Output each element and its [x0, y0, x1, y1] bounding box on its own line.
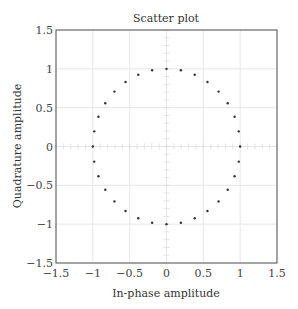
data-point [217, 200, 219, 202]
data-point [206, 81, 208, 83]
data-point [238, 130, 240, 132]
data-point [104, 102, 106, 104]
data-point [97, 175, 99, 177]
data-point [217, 90, 219, 92]
chart-title: Scatter plot [133, 12, 200, 25]
data-point [165, 223, 167, 225]
data-point [206, 210, 208, 212]
data-point [194, 74, 196, 76]
data-point [227, 188, 229, 190]
data-point [137, 74, 139, 76]
data-point [233, 175, 235, 177]
data-point [239, 145, 241, 147]
x-tick-label: 0.5 [195, 267, 213, 280]
x-tick-labels: −1.5−1−0.500.511.5 [43, 267, 286, 280]
data-point [124, 81, 126, 83]
x-axis-label: In-phase amplitude [112, 287, 220, 300]
data-point [151, 221, 153, 223]
data-point [124, 210, 126, 212]
data-point [180, 69, 182, 71]
scatter-chart: −1.5−1−0.500.511.5 −1.5−1−0.500.511.5 Sc… [0, 0, 298, 309]
y-tick-label: −0.5 [26, 179, 53, 192]
y-tick-labels: −1.5−1−0.500.511.5 [26, 24, 53, 270]
y-tick-label: −1.5 [26, 257, 53, 270]
x-tick-label: 0 [163, 267, 170, 280]
data-point [113, 90, 115, 92]
x-tick-label: −0.5 [116, 267, 143, 280]
y-axis-label: Quadrature amplitude [11, 84, 24, 208]
y-tick-label: 0.5 [36, 102, 54, 115]
y-tick-label: 0 [46, 141, 53, 154]
data-point [137, 217, 139, 219]
x-tick-label: 1 [237, 267, 244, 280]
data-point [92, 145, 94, 147]
data-point [93, 160, 95, 162]
data-point [97, 116, 99, 118]
y-tick-label: 1 [46, 63, 53, 76]
data-point [93, 130, 95, 132]
data-point [180, 221, 182, 223]
x-tick-label: 1.5 [268, 267, 286, 280]
data-point [151, 69, 153, 71]
y-tick-label: −1 [37, 218, 53, 231]
data-point [227, 102, 229, 104]
data-point [194, 217, 196, 219]
data-point [165, 68, 167, 70]
y-tick-label: 1.5 [36, 24, 54, 37]
data-point [113, 200, 115, 202]
data-point [238, 160, 240, 162]
x-tick-label: −1 [85, 267, 101, 280]
data-point [104, 188, 106, 190]
data-point [233, 116, 235, 118]
